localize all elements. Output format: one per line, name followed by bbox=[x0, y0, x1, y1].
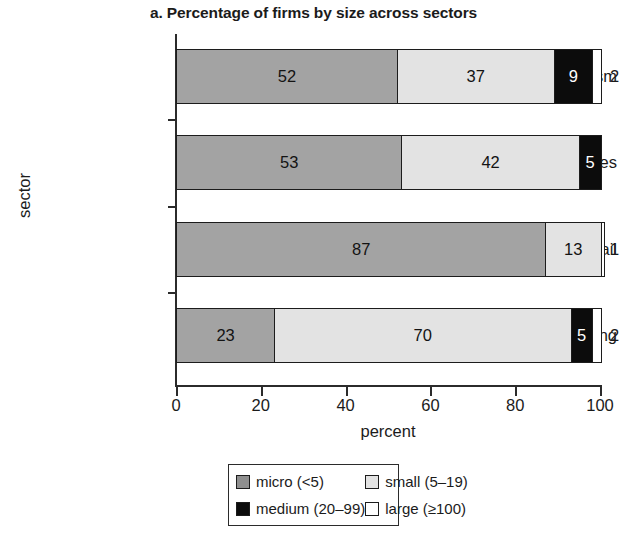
x-axis-tick bbox=[600, 387, 602, 396]
bar-row: 53425 bbox=[176, 135, 600, 190]
x-axis-tick bbox=[515, 387, 517, 396]
legend-item[interactable]: micro (<5) bbox=[236, 474, 365, 489]
bar-segment-medium: 5 bbox=[579, 135, 602, 190]
legend-label: medium (20–99) bbox=[256, 501, 365, 516]
y-axis-tick bbox=[168, 206, 176, 208]
legend-label: large (≥100) bbox=[385, 501, 466, 516]
bar-outside-value: 2 bbox=[610, 308, 619, 363]
x-axis-tick-label: 0 bbox=[146, 396, 206, 415]
bar-segment-value: 87 bbox=[352, 241, 370, 258]
bar-segment-value: 70 bbox=[414, 327, 432, 344]
bar-row: 237052 bbox=[176, 308, 600, 363]
x-axis-tick-label: 20 bbox=[231, 396, 291, 415]
bar-segment-value: 53 bbox=[280, 154, 298, 171]
bar-segment-value: 5 bbox=[586, 154, 595, 171]
plot-area: 5237925342587131237052 bbox=[176, 36, 600, 384]
x-axis-tick-label: 80 bbox=[485, 396, 545, 415]
bar-segment-medium: 9 bbox=[553, 49, 593, 104]
x-axis-tick bbox=[346, 387, 348, 396]
x-axis-tick bbox=[261, 387, 263, 396]
legend-item[interactable]: medium (20–99) bbox=[236, 501, 365, 516]
bar-outside-value: 2 bbox=[610, 49, 619, 104]
bar-outside-value: 1 bbox=[610, 222, 619, 277]
x-axis-tick bbox=[430, 387, 432, 396]
legend-swatch-icon bbox=[236, 502, 250, 516]
legend-swatch-icon bbox=[365, 475, 379, 489]
bar-segment-value: 23 bbox=[216, 327, 234, 344]
bar-segment-value: 9 bbox=[569, 68, 578, 85]
bar-segment-value: 52 bbox=[278, 68, 296, 85]
legend-item[interactable]: small (5–19) bbox=[365, 474, 468, 489]
bar-segment-value: 37 bbox=[467, 68, 485, 85]
legend-label: micro (<5) bbox=[256, 474, 324, 489]
bar-segment-small: 37 bbox=[396, 49, 554, 104]
x-axis-tick-label: 40 bbox=[316, 396, 376, 415]
y-axis-tick bbox=[168, 292, 176, 294]
legend-item[interactable]: large (≥100) bbox=[365, 501, 468, 516]
bar-segment-micro: 23 bbox=[176, 308, 275, 363]
bar-segment-value: 13 bbox=[564, 241, 582, 258]
bar-segment-micro: 52 bbox=[176, 49, 398, 104]
y-axis-title: sector bbox=[15, 136, 34, 256]
bar-segment-small: 42 bbox=[401, 135, 581, 190]
legend: micro (<5)small (5–19)medium (20–99)larg… bbox=[228, 464, 399, 526]
legend-swatch-icon bbox=[365, 502, 379, 516]
chart-figure: a. Percentage of firms by size across se… bbox=[0, 0, 627, 535]
bar-row: 87131 bbox=[176, 222, 600, 277]
legend-label: small (5–19) bbox=[385, 474, 468, 489]
bar-segment-micro: 87 bbox=[176, 222, 546, 277]
bar-segment-small: 70 bbox=[274, 308, 572, 363]
bar-row: 523792 bbox=[176, 49, 600, 104]
x-axis-tick-label: 60 bbox=[400, 396, 460, 415]
bar-segment-medium: 5 bbox=[570, 308, 593, 363]
legend-swatch-icon bbox=[236, 475, 250, 489]
x-axis-tick bbox=[176, 387, 178, 396]
bar-segment-small: 13 bbox=[545, 222, 602, 277]
chart-title: a. Percentage of firms by size across se… bbox=[0, 4, 627, 22]
bar-segment-value: 5 bbox=[577, 327, 586, 344]
x-axis-title: percent bbox=[176, 422, 600, 441]
x-axis-line bbox=[175, 385, 602, 387]
bar-segment-micro: 53 bbox=[176, 135, 402, 190]
bar-segment-value: 42 bbox=[481, 154, 499, 171]
y-axis-tick bbox=[168, 119, 176, 121]
x-axis-tick-label: 100 bbox=[570, 396, 627, 415]
